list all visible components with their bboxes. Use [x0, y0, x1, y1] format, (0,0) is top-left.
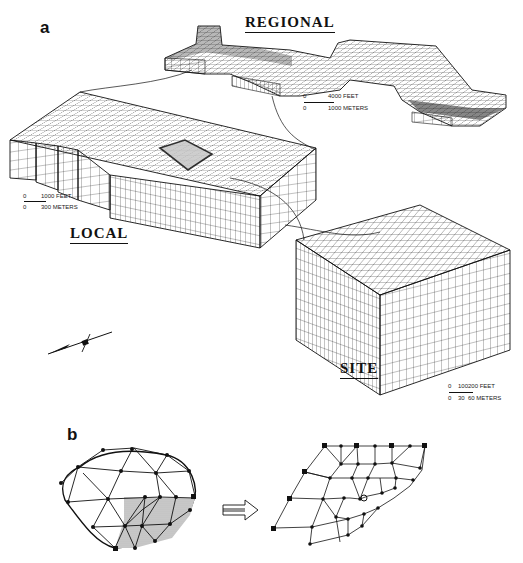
scale-feet-mid: 100 — [458, 383, 468, 389]
scale-zero: 0 — [23, 193, 26, 199]
panel-b-label: b — [67, 425, 77, 445]
scale-meters-mid: 30 — [458, 395, 465, 401]
local-grid-model — [10, 92, 316, 248]
scale-feet: 200 FEET — [468, 383, 495, 389]
site-title: SITE — [340, 360, 378, 379]
connector-regional-to-local — [80, 70, 192, 92]
refinement-arrow-icon — [223, 500, 258, 520]
north-arrow-icon — [48, 332, 112, 354]
scale-meters: 1000 METERS — [328, 105, 368, 111]
site-scale-bar: 0 100 200 FEET 0 30 60 METERS — [448, 383, 523, 405]
scale-feet: 4000 FEET — [328, 93, 358, 99]
local-title: LOCAL — [70, 225, 128, 244]
site-grid-model — [296, 205, 510, 395]
scale-zero: 0 — [303, 105, 306, 111]
regional-scale-bar: 0 4000 FEET 0 1000 METERS — [303, 93, 363, 115]
scale-meters: 60 METERS — [468, 395, 501, 401]
scale-zero: 0 — [448, 383, 451, 389]
scale-meters: 300 METERS — [41, 204, 78, 210]
refined-mesh-nodes — [271, 443, 427, 546]
panel-a-label: a — [40, 18, 49, 38]
scale-zero: 0 — [448, 395, 451, 401]
scale-feet: 1000 FEET — [41, 193, 71, 199]
local-scale-bar: 0 1000 FEET 0 300 METERS — [23, 193, 83, 215]
regional-title: REGIONAL — [245, 14, 335, 33]
refined-mesh — [274, 446, 425, 544]
scale-zero: 0 — [303, 93, 306, 99]
figure-canvas — [0, 0, 523, 563]
scale-zero: 0 — [23, 204, 26, 210]
